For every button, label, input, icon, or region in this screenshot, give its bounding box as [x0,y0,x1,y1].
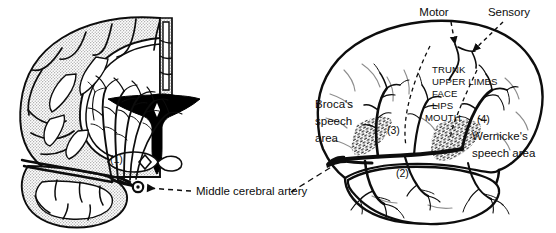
brocas-label-line3: area [315,132,339,144]
homunculus-label-trunk: TRUNK [432,64,466,75]
wernickes-label-line1: Wernicke's [472,130,528,142]
homunculus-label-mouth: MOUTH [425,112,461,123]
wernickes-label-line2: speech area [472,147,536,159]
brocas-label-line1: Broca's [315,98,353,110]
brocas-label-line2: speech [315,115,352,127]
marker-3: (3) [387,124,400,136]
homunculus-label-lips: LIPS [432,100,453,111]
motor-label: Motor [419,6,449,18]
homunculus-label-upper-limbs: UPPER LIMBS [432,76,498,87]
figure-canvas: (1) Middle cerebral artery [0,0,556,233]
sensory-label: Sensory [488,6,530,18]
brain-artery-figure: (1) Middle cerebral artery [0,0,556,233]
marker-1: (1) [110,153,123,165]
marker-2: (2) [396,167,409,179]
marker-4: (4) [477,113,490,125]
middle-cerebral-artery-label: Middle cerebral artery [196,185,307,197]
homunculus-label-face: FACE [432,88,457,99]
